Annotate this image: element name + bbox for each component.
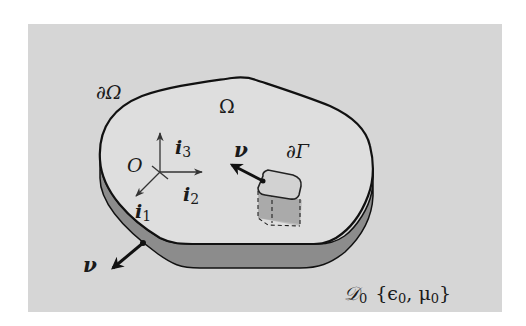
inner-normal-origin (261, 179, 266, 184)
axis-i1-base: i (135, 200, 142, 222)
ambient-params-sub1: 0 (398, 291, 406, 306)
outer-normal-label: ν (83, 253, 97, 277)
axis-i3-base: i (175, 136, 182, 158)
inner-normal-label: ν (234, 138, 248, 162)
ambient-params-open: {ϵ (375, 282, 398, 304)
ambient-params-mid: , μ (406, 282, 430, 304)
ambient-sub: 0 (359, 291, 367, 306)
outer-normal-origin (140, 240, 146, 246)
boundary-label: ∂Ω (96, 81, 122, 103)
axis-i2-sub: 2 (190, 191, 199, 207)
ambient-params-close: } (439, 282, 451, 304)
axis-i2-base: i (183, 183, 190, 205)
ambient-params-sub2: 0 (431, 291, 439, 306)
axis-i3-sub: 3 (182, 144, 191, 160)
domain-diagram: ∂Ω Ω O i3 i2 i1 ν ν ∂Γ 𝒟0{ϵ0, μ0} (0, 0, 526, 326)
subboundary-label: ∂Γ (286, 140, 310, 162)
origin-label: O (127, 154, 143, 176)
axis-i1-sub: 1 (142, 208, 151, 224)
domain-label: Ω (219, 95, 235, 117)
subdomain-box (258, 170, 302, 226)
